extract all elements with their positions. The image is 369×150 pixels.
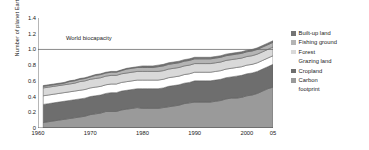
legend-swatch-icon	[291, 59, 296, 64]
x-tick-label: 1980	[136, 130, 149, 136]
legend-label: Fishing ground	[299, 39, 337, 46]
chart-legend: Built-up landFishing groundForestGrazing…	[291, 30, 369, 94]
legend-swatch-icon	[291, 40, 296, 45]
legend-label: Grazing land	[299, 58, 332, 65]
x-tick-label: 1960	[32, 130, 45, 136]
legend-label: Forest	[299, 49, 315, 56]
legend-item: Forest	[291, 49, 369, 56]
legend-item: Cropland	[291, 68, 369, 75]
legend-label: Carbon	[299, 77, 318, 84]
legend-label-continuation: footprint	[299, 86, 320, 93]
legend-swatch-icon	[291, 31, 296, 36]
legend-item: Carbon	[291, 77, 369, 84]
legend-label: Cropland	[299, 68, 323, 75]
legend-item-continuation: footprint	[291, 86, 369, 93]
x-tick-label: 05	[270, 130, 276, 136]
chart-figure: Number of planet Earths 00.20.40.60.81.0…	[0, 0, 369, 150]
legend-item: Built-up land	[291, 30, 369, 37]
x-tick-label: 2000	[240, 130, 253, 136]
legend-swatch-icon	[291, 78, 296, 83]
x-tick-label: 1970	[84, 130, 97, 136]
legend-swatch-icon	[291, 69, 296, 74]
x-tick-label: 1990	[188, 130, 201, 136]
legend-item: Grazing land	[291, 58, 369, 65]
legend-label: Built-up land	[299, 30, 331, 37]
legend-item: Fishing ground	[291, 39, 369, 46]
legend-swatch-icon	[291, 50, 296, 55]
